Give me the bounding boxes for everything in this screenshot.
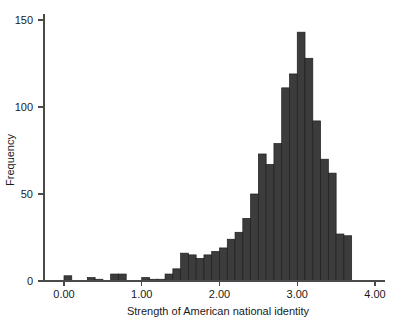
y-axis-ticks: 050100150 (15, 14, 44, 287)
histogram-bar (289, 74, 297, 281)
histogram-chart: 0.001.002.003.004.00 050100150 Strength … (0, 0, 396, 325)
x-tick-label: 2.00 (209, 288, 230, 300)
histogram-bar (64, 276, 72, 281)
histogram-bar (258, 154, 266, 281)
histogram-bar (313, 121, 321, 281)
y-tick-label: 50 (21, 188, 33, 200)
y-axis-label: Frequency (4, 134, 16, 186)
histogram-bar (266, 164, 274, 281)
histogram-bar (165, 274, 173, 281)
histogram-bar (212, 251, 220, 281)
histogram-bar (173, 269, 181, 281)
x-axis-ticks: 0.001.002.003.004.00 (53, 281, 385, 300)
y-tick-label: 100 (15, 101, 33, 113)
histogram-bar (328, 173, 336, 281)
histogram-bar (196, 258, 204, 281)
histogram-bar (305, 58, 313, 281)
histogram-bar (243, 218, 251, 281)
x-tick-label: 1.00 (131, 288, 152, 300)
histogram-bar (204, 255, 212, 281)
x-axis-label: Strength of American national identity (127, 305, 310, 317)
histogram-bar (227, 239, 235, 281)
x-tick-label: 3.00 (287, 288, 308, 300)
histogram-bar (297, 32, 305, 281)
histogram-figure: 0.001.002.003.004.00 050100150 Strength … (0, 0, 396, 325)
x-tick-label: 0.00 (53, 288, 74, 300)
histogram-bar (274, 144, 282, 281)
histogram-bar (118, 274, 126, 281)
histogram-bar (111, 274, 119, 281)
x-tick-label: 4.00 (364, 288, 385, 300)
histogram-bar (235, 232, 243, 281)
histogram-bar (251, 194, 259, 281)
histogram-bar (321, 159, 329, 281)
histogram-bar (220, 248, 228, 281)
histogram-bar (188, 255, 196, 281)
histogram-bar (282, 88, 290, 281)
histogram-bars (64, 32, 352, 281)
histogram-bar (336, 234, 344, 281)
histogram-bar (344, 236, 352, 281)
histogram-bar (181, 253, 189, 281)
y-tick-label: 0 (27, 275, 33, 287)
y-tick-label: 150 (15, 14, 33, 26)
